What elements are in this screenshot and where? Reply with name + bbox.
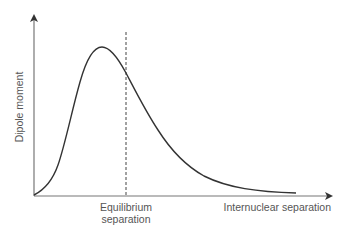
equilibrium-label-line1: Equilibrium: [100, 201, 152, 213]
equilibrium-label-line2: separation: [101, 213, 150, 225]
y-axis-label: Dipole moment: [13, 72, 25, 143]
dipole-moment-curve: [34, 47, 296, 195]
dipole-moment-diagram: Dipole moment Internuclear separation Eq…: [0, 0, 347, 237]
x-axis-label: Internuclear separation: [224, 201, 332, 213]
